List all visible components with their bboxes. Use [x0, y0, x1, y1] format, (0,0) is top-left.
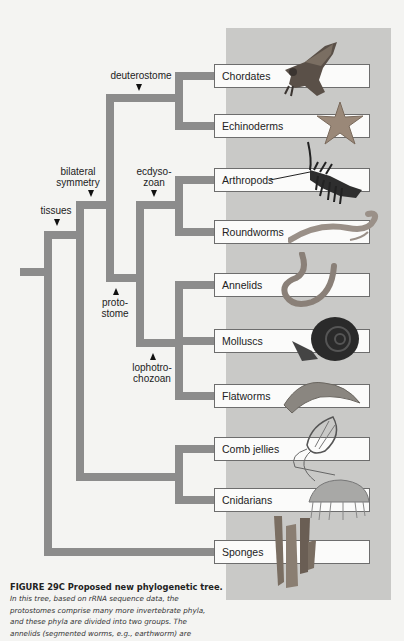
node-label-line: chozoan: [124, 373, 180, 384]
protostome-arrow-icon: [113, 288, 119, 295]
caption-line: protostomes comprise many more invertebr…: [10, 605, 280, 617]
ecdysozoan-arrow-icon: [151, 190, 157, 197]
tissues-arrow-icon: [54, 219, 60, 226]
node-label-line: proto-: [96, 297, 134, 308]
deuterostome-arrow-icon: [136, 84, 142, 91]
caption-body: In this tree, based on rRNA sequence dat…: [10, 593, 280, 639]
node-label-line: symmetry: [52, 177, 104, 188]
taxon-label: Arthropods: [222, 174, 273, 186]
hawk-icon: [275, 40, 343, 102]
lobster-icon: [270, 140, 365, 210]
caption-line: In this tree, based on rRNA sequence dat…: [10, 593, 280, 605]
taxon-label: Comb jellies: [222, 443, 279, 455]
taxon-label: Roundworms: [222, 226, 284, 238]
caption-line: and these phyla are divided into two gro…: [10, 616, 280, 628]
node-label-protostome: proto- stome: [96, 297, 134, 319]
taxon-label: Echinoderms: [222, 120, 283, 132]
node-label-line: ecdyso-: [132, 166, 176, 177]
taxon-label: Annelids: [222, 279, 262, 291]
node-label-lophotrochozoan: lophotro- chozoan: [124, 362, 180, 384]
node-label-ecdysozoan: ecdyso- zoan: [132, 166, 176, 188]
bilateral-arrow-icon: [88, 190, 94, 197]
taxon-label: Molluscs: [222, 335, 263, 347]
node-label-bilateral-symmetry: bilateral symmetry: [52, 166, 104, 188]
node-label-tissues: tissues: [36, 205, 76, 216]
flatworm-icon: [280, 375, 365, 415]
earthworm-icon: [272, 252, 342, 312]
node-label-line: lophotro-: [124, 362, 180, 373]
sponge-icon: [272, 512, 317, 590]
taxon-label: Sponges: [222, 546, 263, 558]
node-label-line: zoan: [132, 177, 176, 188]
comb-jelly-icon: [285, 415, 345, 485]
caption-line: annelids (segmented worms, e.g., earthwo…: [10, 628, 280, 640]
node-label-deuterostome: deuterostome: [106, 70, 176, 81]
taxon-label: Cnidarians: [222, 494, 272, 506]
snail-icon: [290, 315, 365, 365]
node-label-line: stome: [96, 308, 134, 319]
lophotrochozoan-arrow-icon: [150, 353, 156, 360]
caption-title: FIGURE 29C Proposed new phylogenetic tre…: [10, 582, 280, 593]
node-label-line: bilateral: [52, 166, 104, 177]
roundworm-icon: [288, 210, 380, 246]
taxon-label: Flatworms: [222, 390, 270, 402]
figure-caption: FIGURE 29C Proposed new phylogenetic tre…: [10, 582, 280, 639]
taxon-label: Chordates: [222, 70, 270, 82]
